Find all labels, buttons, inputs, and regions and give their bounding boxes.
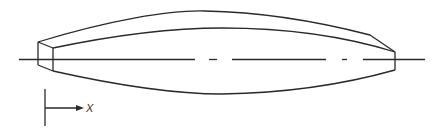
left-end-face <box>38 42 53 71</box>
beam-diagram <box>0 0 443 135</box>
arrow-right-icon <box>76 105 84 111</box>
top-inner-edge <box>53 28 395 52</box>
x-axis-indicator <box>45 89 84 126</box>
bottom-edge <box>53 70 395 94</box>
top-outer-edge <box>38 11 395 52</box>
